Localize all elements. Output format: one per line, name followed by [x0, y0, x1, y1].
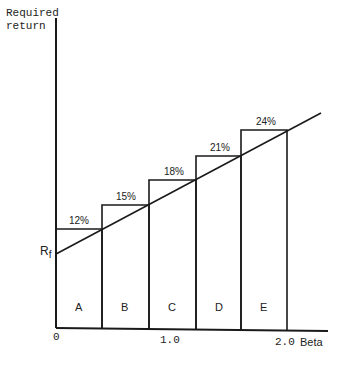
- y-axis-label-line1: Required: [6, 7, 59, 19]
- bar-value-label-c: 18%: [164, 166, 184, 177]
- x-tick-1: 1.0: [160, 334, 180, 346]
- bar-value-label-d: 21%: [210, 142, 230, 153]
- bar-letter-b: B: [121, 301, 128, 313]
- bar-value-label-e: 24%: [256, 116, 276, 127]
- x-tick-2: 2.0: [275, 336, 295, 348]
- bar-letter-e: E: [260, 301, 267, 313]
- chart-canvas: [0, 0, 347, 369]
- rf-marker: Rf: [40, 244, 51, 260]
- bar-letter-a: A: [75, 301, 82, 313]
- rf-sub: f: [49, 249, 52, 260]
- security-market-line: [56, 113, 321, 254]
- x-axis-label: Beta: [300, 336, 323, 348]
- bar-a: [56, 229, 102, 328]
- bar-letter-d: D: [215, 301, 223, 313]
- bar-value-label-b: 15%: [116, 191, 136, 202]
- bar-letter-c: C: [168, 301, 176, 313]
- y-axis-label-line2: return: [6, 20, 46, 32]
- rf-main: R: [40, 244, 49, 258]
- x-tick-0: 0: [53, 331, 60, 343]
- bar-value-label-a: 12%: [69, 215, 89, 226]
